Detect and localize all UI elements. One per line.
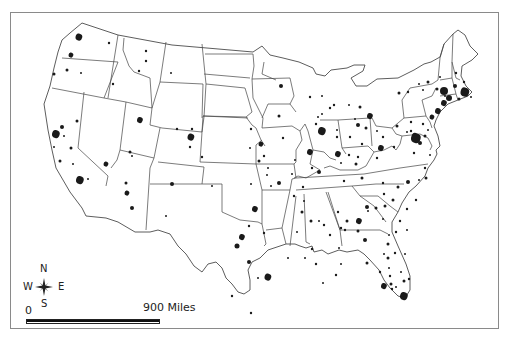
urban-area xyxy=(258,160,261,163)
urban-area xyxy=(399,220,401,222)
urban-area xyxy=(400,271,402,273)
urban-area xyxy=(170,182,174,186)
urban-area xyxy=(145,60,147,62)
urban-area xyxy=(407,91,409,93)
urban-area xyxy=(357,156,359,158)
urban-area xyxy=(340,162,342,164)
urban-area xyxy=(383,193,385,195)
urban-area xyxy=(444,95,446,97)
urban-area xyxy=(310,220,313,223)
urban-area xyxy=(429,114,434,119)
urban-area xyxy=(53,146,55,148)
urban-area xyxy=(336,136,338,138)
urban-area xyxy=(201,156,203,158)
urban-area xyxy=(381,283,387,289)
urban-area xyxy=(400,292,408,300)
urban-area xyxy=(429,154,431,156)
compass-north-label: N xyxy=(40,263,47,274)
urban-area xyxy=(278,115,281,118)
urban-area xyxy=(137,117,143,123)
urban-area xyxy=(455,72,457,74)
urban-area xyxy=(410,121,412,123)
urban-area xyxy=(263,155,265,157)
urban-area xyxy=(138,70,140,72)
urban-area xyxy=(424,167,426,169)
urban-area xyxy=(247,260,251,264)
urban-area xyxy=(363,238,367,242)
urban-area xyxy=(239,234,245,240)
urban-area xyxy=(318,127,326,135)
urban-area xyxy=(361,143,363,145)
urban-area xyxy=(131,155,133,157)
urban-area xyxy=(343,180,345,182)
urban-area xyxy=(303,200,305,202)
urban-area xyxy=(359,106,362,109)
urban-area xyxy=(315,263,317,265)
urban-area xyxy=(388,267,390,269)
urban-area xyxy=(311,248,313,250)
urban-area xyxy=(337,211,339,213)
urban-area xyxy=(248,225,250,227)
urban-area xyxy=(418,179,420,181)
urban-area xyxy=(293,195,295,197)
urban-area xyxy=(355,163,358,166)
urban-area xyxy=(304,257,306,259)
urban-area xyxy=(463,81,465,83)
scale-start-label: 0 xyxy=(25,304,32,317)
urban-area xyxy=(103,161,108,166)
urban-area xyxy=(393,146,395,148)
urban-area xyxy=(406,131,408,133)
urban-area xyxy=(87,178,89,180)
urban-area xyxy=(189,146,191,148)
urban-area xyxy=(382,182,384,184)
national-outline xyxy=(44,23,478,298)
urban-area xyxy=(387,243,390,246)
urban-area xyxy=(406,180,410,184)
urban-area xyxy=(329,107,331,109)
urban-area xyxy=(277,181,281,185)
urban-area xyxy=(335,274,337,276)
urban-area xyxy=(211,185,213,187)
urban-area xyxy=(70,147,73,150)
urban-area xyxy=(404,253,406,255)
urban-area xyxy=(365,205,369,209)
urban-area xyxy=(470,96,472,98)
urban-area xyxy=(422,123,424,125)
urban-area xyxy=(301,211,304,214)
urban-area xyxy=(76,120,79,123)
urban-area xyxy=(376,130,378,132)
state-boundaries xyxy=(44,23,478,298)
us-urban-areas-map xyxy=(0,0,510,346)
urban-area xyxy=(338,247,340,249)
urban-area xyxy=(145,50,147,52)
urban-area xyxy=(250,128,252,130)
urban-area xyxy=(392,199,395,202)
urban-area xyxy=(349,136,351,138)
urban-area xyxy=(72,163,74,165)
urban-area xyxy=(336,129,338,131)
urban-area xyxy=(357,230,360,233)
urban-area xyxy=(264,273,271,280)
urban-area xyxy=(395,231,397,233)
urban-area xyxy=(439,76,441,78)
urban-area xyxy=(340,263,342,265)
urban-area xyxy=(291,173,293,175)
urban-area xyxy=(249,147,251,149)
urban-area xyxy=(410,130,412,132)
compass-east-label: E xyxy=(58,281,64,292)
urban-area xyxy=(333,104,335,106)
urban-area xyxy=(354,118,356,120)
urban-area xyxy=(440,87,448,95)
urban-area xyxy=(165,215,167,217)
urban-area xyxy=(387,257,390,260)
urban-area xyxy=(418,83,420,85)
urban-area xyxy=(318,220,320,222)
urban-area xyxy=(382,136,384,138)
state-lines xyxy=(52,34,460,246)
urban-area xyxy=(235,244,240,249)
urban-area xyxy=(340,227,342,229)
urban-area xyxy=(266,174,268,176)
urban-area xyxy=(317,170,321,174)
urban-area xyxy=(270,185,272,187)
urban-area xyxy=(418,141,422,145)
